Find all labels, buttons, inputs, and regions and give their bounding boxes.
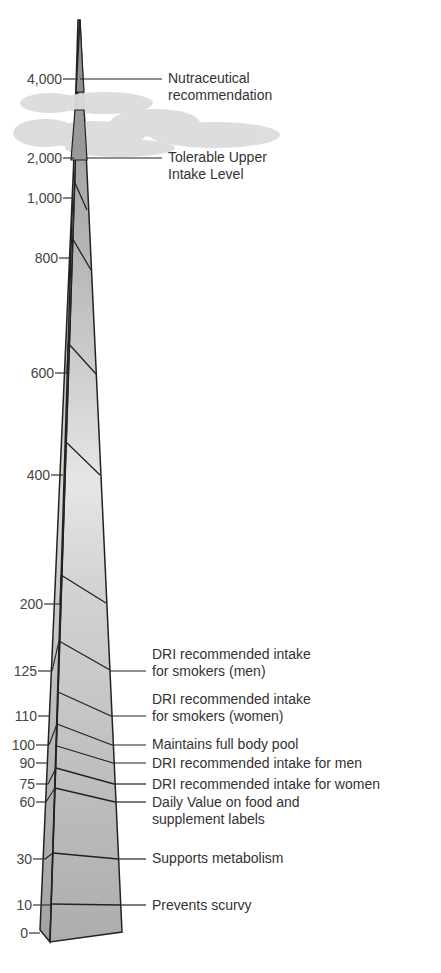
- tick-400: 400: [0, 467, 50, 483]
- annotation-line: Intake Level: [168, 166, 267, 183]
- tick-90: 90: [0, 755, 35, 771]
- annotation-line: Nutraceutical: [168, 70, 272, 87]
- annotation-line: supplement labels: [152, 811, 300, 828]
- annotation-line: Daily Value on food and: [152, 794, 300, 811]
- annotation-dri-women: DRI recommended intake for women: [152, 776, 380, 793]
- annotation-line: DRI recommended intake: [152, 691, 311, 708]
- tick-30: 30: [0, 851, 32, 867]
- annotation-tolerable-upper: Tolerable Upper Intake Level: [168, 149, 267, 183]
- tick-1000: 1,000: [2, 190, 62, 206]
- annotation-metabolism: Supports metabolism: [152, 850, 284, 867]
- annotation-line: DRI recommended intake: [152, 646, 311, 663]
- annotation-line: for smokers (women): [152, 708, 311, 725]
- tick-4000: 4,000: [2, 71, 62, 87]
- tick-60: 60: [0, 794, 35, 810]
- tick-110: 110: [0, 708, 37, 724]
- annotation-line: Tolerable Upper: [168, 149, 267, 166]
- annotation-line: for smokers (men): [152, 663, 311, 680]
- annotation-nutraceutical: Nutraceutical recommendation: [168, 70, 272, 104]
- annotation-daily-value: Daily Value on food and supplement label…: [152, 794, 300, 828]
- annotation-body-pool: Maintains full body pool: [152, 736, 298, 753]
- tick-100: 100: [0, 737, 35, 753]
- tick-10: 10: [0, 897, 32, 913]
- tick-800: 800: [0, 250, 58, 266]
- tick-2000: 2,000: [2, 150, 62, 166]
- annotation-smokers-women: DRI recommended intake for smokers (wome…: [152, 691, 311, 725]
- annotation-scurvy: Prevents scurvy: [152, 897, 252, 914]
- annotation-line: recommendation: [168, 87, 272, 104]
- tick-125: 125: [0, 663, 37, 679]
- tick-200: 200: [0, 596, 43, 612]
- tick-75: 75: [0, 776, 35, 792]
- annotation-smokers-men: DRI recommended intake for smokers (men): [152, 646, 311, 680]
- annotation-dri-men: DRI recommended intake for men: [152, 755, 362, 772]
- tick-0: 0: [0, 925, 28, 941]
- tick-600: 600: [0, 365, 54, 381]
